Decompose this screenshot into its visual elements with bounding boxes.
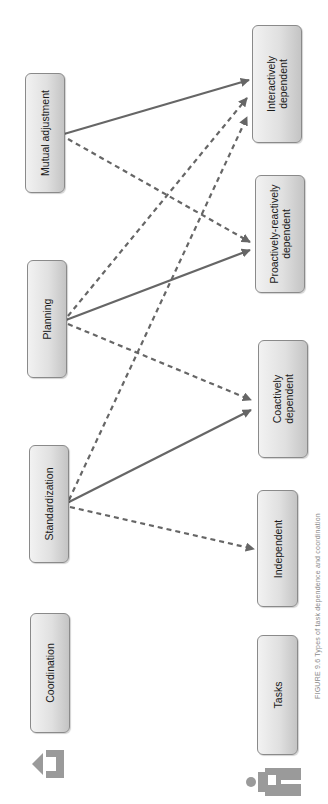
label-line-1: Proactively-reactively [268, 184, 280, 283]
dependence-box-coactive: Coactively dependent [258, 340, 308, 458]
edge-standardization-to-coactive [67, 410, 251, 503]
dependence-box-independent: Independent [257, 490, 298, 607]
mechanism-label: Standardization [43, 468, 55, 541]
person-with-task-icon [245, 762, 303, 802]
label-line-2: dependent [277, 59, 289, 109]
label-line-1: Interactively [265, 56, 277, 112]
mechanism-box-standardization: Standardization [29, 445, 69, 563]
tasks-header-box: Tasks [257, 635, 298, 755]
edge-planning-to-interactive [68, 98, 247, 316]
coordination-header-label: Coordination [44, 643, 56, 703]
mechanism-box-planning: Planning [27, 260, 67, 378]
mechanism-box-mutual-adjustment: Mutual adjustment [25, 73, 65, 193]
dependence-label: Coactively dependent [271, 374, 295, 424]
mechanism-label: Mutual adjustment [39, 90, 51, 176]
edge-mutual-to-proactive [68, 139, 250, 242]
dependence-label: Interactively dependent [265, 56, 289, 112]
figure-caption: FIGURE 9.6 Types of task dependence and … [314, 513, 321, 699]
coordination-header-box: Coordination [30, 613, 70, 733]
dependence-box-interactive: Interactively dependent [252, 25, 302, 143]
label-line-2: dependent [280, 209, 292, 259]
edge-planning-to-coactive [68, 324, 251, 400]
tasks-header-label: Tasks [272, 682, 284, 709]
edge-mutual-to-interactive [64, 80, 249, 134]
label-line-2: dependent [283, 374, 295, 424]
edge-standardization-to-independent [70, 507, 254, 549]
label-line-1: Coactively [271, 375, 283, 423]
dependence-box-proactive-reactive: Proactively-reactively dependent [255, 175, 305, 293]
dependence-label: Independent [272, 519, 284, 577]
dependence-label: Proactively-reactively dependent [268, 184, 292, 283]
building-arrow-icon [30, 742, 68, 782]
mechanism-label: Planning [41, 299, 53, 340]
